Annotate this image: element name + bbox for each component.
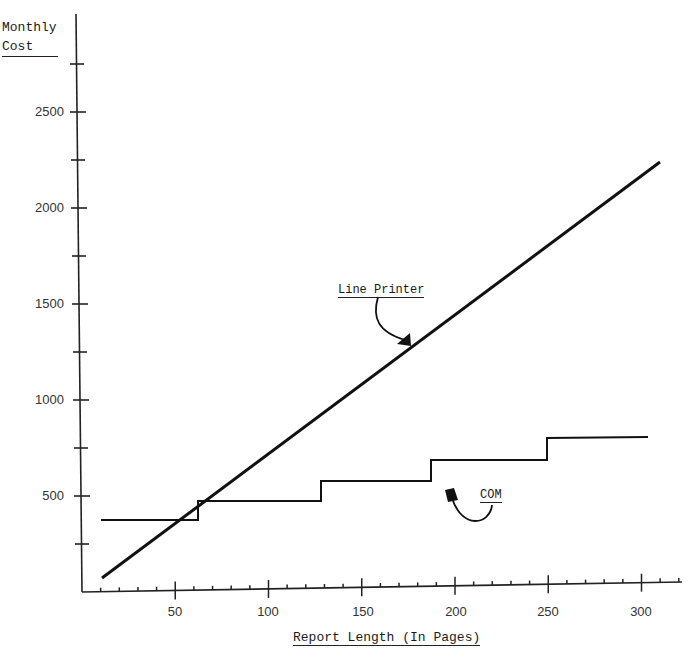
series-com	[101, 437, 648, 520]
arrowhead-line-printer-icon	[397, 333, 411, 346]
arrowhead-com-icon	[445, 488, 458, 502]
arrow-line-printer	[376, 297, 405, 340]
chart-plot	[0, 0, 697, 667]
arrow-com	[452, 498, 492, 521]
axes	[76, 14, 682, 592]
series-line-printer	[102, 162, 660, 578]
